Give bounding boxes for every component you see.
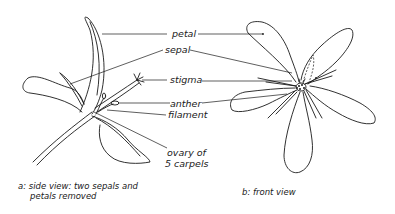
caption-side-view-line2: petals removed (29, 191, 97, 201)
label-sepal: sepal (165, 44, 191, 55)
label-stigma: stigma (170, 74, 203, 85)
side-view-drawing (23, 17, 150, 165)
front-view-drawing (231, 22, 376, 173)
label-filament: filament (168, 109, 209, 120)
side-stigma (134, 73, 144, 85)
flower-diagram: petal sepal stigma anther filament ovary… (0, 0, 395, 214)
label-ovary-line2: 5 carpels (165, 158, 209, 169)
label-anther: anther (170, 98, 202, 109)
side-petal-lower (92, 116, 150, 163)
caption-side-view-line1: a: side view: two sepals and (18, 181, 139, 191)
label-petal: petal (171, 28, 196, 39)
captions: a: side view: two sepals and petals remo… (18, 181, 296, 201)
front-petal-2 (301, 28, 353, 84)
front-petal-5 (231, 88, 297, 112)
front-center (296, 83, 306, 91)
caption-front-view: b: front view (242, 187, 296, 197)
front-petal-4 (284, 92, 313, 173)
label-ovary-line1: ovary of (167, 147, 208, 158)
side-petal-upper (80, 17, 104, 114)
